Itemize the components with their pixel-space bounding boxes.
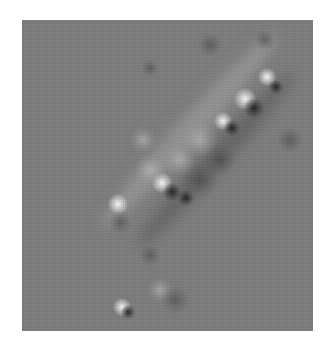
soft-dark-spot [162,287,188,313]
soft-dark-spot [205,145,235,175]
dark-spot [121,305,135,319]
soft-light-spot [130,127,156,153]
soft-dark-spot [109,211,131,233]
dark-spot [269,80,283,94]
soft-dark-spot [142,60,158,76]
dark-spot [244,98,264,118]
image-canvas [0,0,327,357]
dark-spot [224,120,240,136]
soft-dark-spot [199,34,221,56]
soft-dark-spot [255,30,275,50]
soft-light-spot [135,155,165,185]
grayscale-image-panel [22,20,313,331]
soft-dark-spot [278,128,302,152]
soft-dark-spot [140,245,160,265]
